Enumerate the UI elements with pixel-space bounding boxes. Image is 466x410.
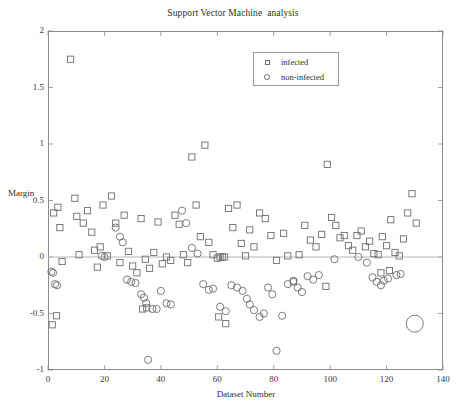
x-tick-label: 100	[315, 374, 345, 384]
x-tick-label: 120	[372, 374, 402, 384]
y-tick-label: -0.5	[16, 308, 44, 318]
legend-item-non-infected[interactable]: non-infected	[254, 69, 340, 85]
svm-scatter-figure: Support Vector Machine analysis Margin D…	[0, 0, 466, 410]
x-tick-label: 140	[428, 374, 458, 384]
x-tick-label: 60	[202, 374, 232, 384]
square-marker-icon	[259, 60, 275, 65]
chart-title: Support Vector Machine analysis	[0, 8, 466, 18]
y-tick-label: 1.5	[16, 82, 44, 92]
y-tick-label: 0	[16, 251, 44, 261]
legend-item-label: infected	[281, 57, 308, 67]
legend-item-infected[interactable]: infected	[254, 54, 340, 70]
y-tick-label: -1	[16, 364, 44, 374]
x-tick-label: 80	[259, 374, 289, 384]
x-axis-label: Dataset Number	[166, 389, 326, 399]
y-tick-label: 2	[16, 25, 44, 35]
circle-marker-icon	[259, 74, 275, 80]
plot-area-frame	[48, 31, 443, 370]
x-tick-label: 20	[89, 374, 119, 384]
x-tick-label: 40	[146, 374, 176, 384]
x-tick-label: 0	[33, 374, 63, 384]
legend[interactable]: infected non-infected	[253, 52, 339, 86]
y-tick-label: 0.5	[16, 195, 44, 205]
y-tick-label: 1	[16, 138, 44, 148]
legend-item-label: non-infected	[281, 72, 324, 82]
